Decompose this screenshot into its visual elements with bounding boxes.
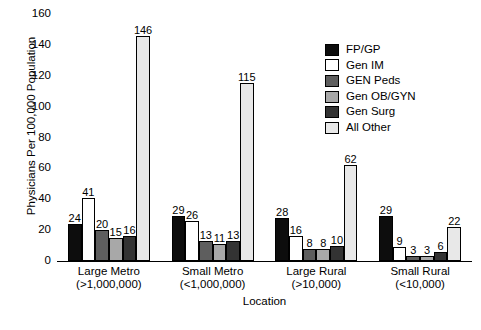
bar-value-label: 13 xyxy=(200,230,212,241)
x-axis-line xyxy=(57,261,472,262)
bar-value-label: 28 xyxy=(276,207,288,218)
y-axis-tick-20: 20 xyxy=(38,224,51,236)
legend-label: Gen OB/GYN xyxy=(346,91,416,103)
legend-swatch-icon xyxy=(325,44,339,56)
x-axis-tick-labels: Large Metro(>1,000,000)Small Metro(<1,00… xyxy=(57,265,472,291)
x-axis-title: Location xyxy=(57,295,472,307)
bar-value-label: 13 xyxy=(227,230,239,241)
bar[interactable]: 62 xyxy=(344,165,358,261)
bar-value-label: 115 xyxy=(238,72,256,83)
x-tick-name: Small Metro xyxy=(161,265,265,278)
x-tick-sub: (<10,000) xyxy=(368,278,472,291)
legend-item[interactable]: Gen Surg xyxy=(325,104,416,120)
bar-cluster: 2926131113115 xyxy=(172,14,254,261)
bar-value-label: 146 xyxy=(134,25,152,36)
bar[interactable]: 146 xyxy=(136,36,150,261)
legend-label: Gen Surg xyxy=(346,106,395,118)
bar[interactable]: 13 xyxy=(226,241,240,261)
physician-supply-bar-chart: Physicians Per 100,000 Population 160140… xyxy=(0,0,481,330)
legend-item[interactable]: FP/GP xyxy=(325,42,416,58)
bar-value-label: 8 xyxy=(320,238,326,249)
bar-value-label: 15 xyxy=(110,227,122,238)
y-axis-tick-0: 0 xyxy=(45,255,51,267)
bar-cluster: 2441201516146 xyxy=(68,14,150,261)
bar[interactable]: 8 xyxy=(303,249,317,261)
y-axis-tick-100: 100 xyxy=(32,101,51,113)
x-axis-tick-label: Small Rural(<10,000) xyxy=(368,265,472,291)
bar-value-label: 62 xyxy=(344,154,356,165)
bar[interactable]: 9 xyxy=(393,247,407,261)
x-tick-name: Small Rural xyxy=(368,265,472,278)
bar[interactable]: 29 xyxy=(379,216,393,261)
bar-value-label: 3 xyxy=(410,245,416,256)
bar-value-label: 8 xyxy=(306,238,312,249)
bar-value-label: 29 xyxy=(380,205,392,216)
x-axis-tick-label: Large Metro(>1,000,000) xyxy=(57,265,161,291)
y-axis-tick-140: 140 xyxy=(32,39,51,51)
x-tick-sub: (<1,000,000) xyxy=(161,278,265,291)
bar[interactable]: 8 xyxy=(316,249,330,261)
legend-item[interactable]: All Other xyxy=(325,120,416,136)
bar-value-label: 16 xyxy=(290,225,302,236)
legend-swatch-icon xyxy=(325,59,339,71)
bar-group: 2441201516146 xyxy=(57,14,161,261)
chart-legend: FP/GPGen IMGEN PedsGen OB/GYNGen SurgAll… xyxy=(325,42,416,136)
legend-swatch-icon xyxy=(325,75,339,87)
bar-group: 2926131113115 xyxy=(161,14,265,261)
bar-value-label: 3 xyxy=(424,245,430,256)
x-tick-sub: (>1,000,000) xyxy=(57,278,161,291)
legend-swatch-icon xyxy=(325,122,339,134)
legend-item[interactable]: Gen OB/GYN xyxy=(325,89,416,105)
legend-item[interactable]: Gen IM xyxy=(325,58,416,74)
x-tick-name: Large Metro xyxy=(57,265,161,278)
bar[interactable]: 26 xyxy=(185,221,199,261)
x-axis-tick-label: Large Rural(>10,000) xyxy=(265,265,369,291)
figure-caption xyxy=(30,320,460,330)
bar-value-label: 9 xyxy=(397,236,403,247)
bar[interactable]: 16 xyxy=(289,236,303,261)
bar-value-label: 26 xyxy=(186,210,198,221)
bar[interactable]: 16 xyxy=(123,236,137,261)
bar[interactable]: 20 xyxy=(95,230,109,261)
bar-value-label: 22 xyxy=(448,216,460,227)
x-axis-tick-label: Small Metro(<1,000,000) xyxy=(161,265,265,291)
bar[interactable]: 22 xyxy=(447,227,461,261)
y-axis-tick-120: 120 xyxy=(32,70,51,82)
bar-value-label: 11 xyxy=(214,233,225,244)
bar-value-label: 6 xyxy=(438,241,444,252)
bar[interactable]: 15 xyxy=(109,238,123,261)
bar-value-label: 29 xyxy=(172,205,184,216)
legend-label: FP/GP xyxy=(346,44,381,56)
bar[interactable]: 13 xyxy=(199,241,213,261)
y-axis-tick-60: 60 xyxy=(38,163,51,175)
legend-swatch-icon xyxy=(325,106,339,118)
bar-value-label: 24 xyxy=(69,213,81,224)
bar[interactable]: 29 xyxy=(172,216,186,261)
legend-swatch-icon xyxy=(325,91,339,103)
bar-value-label: 20 xyxy=(96,219,108,230)
legend-label: Gen IM xyxy=(346,60,384,72)
bar[interactable]: 11 xyxy=(213,244,227,261)
bar[interactable]: 115 xyxy=(240,83,254,261)
x-tick-sub: (>10,000) xyxy=(265,278,369,291)
bar-value-label: 10 xyxy=(331,235,343,246)
x-tick-name: Large Rural xyxy=(265,265,369,278)
bar[interactable]: 24 xyxy=(68,224,82,261)
legend-label: GEN Peds xyxy=(346,75,400,87)
bar-value-label: 41 xyxy=(82,187,94,198)
bar[interactable]: 41 xyxy=(82,198,96,261)
bar[interactable]: 28 xyxy=(275,218,289,261)
legend-item[interactable]: GEN Peds xyxy=(325,73,416,89)
bar-value-label: 16 xyxy=(123,225,135,236)
bar[interactable]: 6 xyxy=(434,252,448,261)
legend-label: All Other xyxy=(346,122,391,134)
y-axis-tick-40: 40 xyxy=(38,194,51,206)
y-axis-tick-80: 80 xyxy=(38,132,51,144)
bar[interactable]: 10 xyxy=(330,246,344,261)
y-axis-tick-160: 160 xyxy=(32,8,51,20)
